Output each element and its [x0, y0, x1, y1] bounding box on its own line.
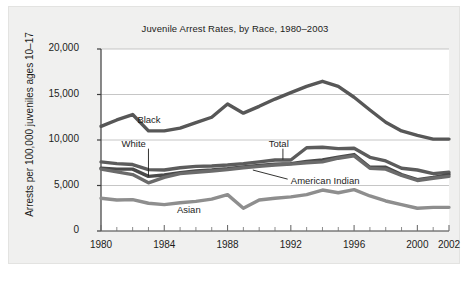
- x-axis-tick-label: 1992: [271, 239, 311, 250]
- black-label: Black: [137, 114, 160, 125]
- x-axis-tick-label: 1996: [334, 239, 374, 250]
- white-label: White: [122, 138, 146, 149]
- y-axis-tick-label: 10,000: [33, 133, 79, 144]
- total-label: Total: [269, 138, 289, 149]
- chart-figure-inner: Juvenile Arrest Rates, by Race, 1980–200…: [9, 7, 459, 263]
- y-axis-tick-labels: 05,00010,00015,00020,000: [33, 7, 79, 263]
- asian-label: Asian: [177, 204, 201, 215]
- x-axis-tick-label: 2002: [429, 239, 468, 250]
- x-axis-tick-label: 1984: [144, 239, 184, 250]
- y-axis-tick-label: 5,000: [33, 179, 79, 190]
- y-axis-tick-label: 20,000: [33, 42, 79, 53]
- american-indian-label: American Indian: [291, 175, 360, 186]
- y-axis-tick-label: 0: [33, 224, 79, 235]
- x-axis-tick-labels: 1980198419881992199620002002: [9, 239, 461, 257]
- y-axis-tick-label: 15,000: [33, 88, 79, 99]
- x-axis-tick-label: 1988: [208, 239, 248, 250]
- chart-figure-panel: Juvenile Arrest Rates, by Race, 1980–200…: [8, 6, 460, 264]
- x-axis-tick-label: 1980: [81, 239, 121, 250]
